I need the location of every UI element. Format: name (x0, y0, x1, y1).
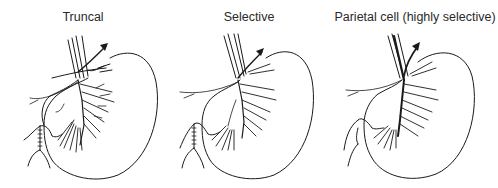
panel-parietal-cell: Parietal cell (highly selective) (332, 0, 498, 188)
panel-selective: Selective (166, 0, 332, 188)
arrow-head-icon (256, 48, 264, 56)
stomach-diagram-parietal-cell (332, 0, 498, 188)
panel-truncal: Truncal (0, 0, 166, 188)
stomach-diagram-selective (166, 0, 332, 188)
stomach-diagram-truncal (0, 0, 166, 188)
